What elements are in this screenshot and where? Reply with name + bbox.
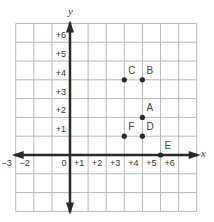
- point-label-b: B: [146, 66, 153, 76]
- point-label-d: D: [146, 122, 153, 132]
- y-tick-label: +3: [50, 87, 66, 97]
- x-tick-label: +6: [163, 158, 177, 168]
- x-tick-label: −2: [18, 158, 32, 168]
- point-d: [140, 134, 145, 139]
- arrow-up-icon: [66, 20, 74, 32]
- y-tick-label: +5: [50, 49, 66, 59]
- y-tick-label: +2: [50, 105, 66, 115]
- grid-lines: [16, 23, 197, 211]
- arrow-down-icon: [66, 202, 74, 214]
- x-tick-label: +3: [108, 158, 122, 168]
- x-tick-label: +2: [90, 158, 104, 168]
- point-a: [140, 115, 145, 120]
- point-e: [158, 152, 163, 157]
- coordinate-grid: [0, 0, 214, 222]
- point-label-a: A: [146, 103, 153, 113]
- x-tick-label: 0: [57, 158, 71, 168]
- point-f: [122, 134, 127, 139]
- point-label-f: F: [128, 122, 134, 132]
- y-tick-label: +4: [50, 68, 66, 78]
- arrow-right-icon: [189, 151, 201, 159]
- point-c: [122, 77, 127, 82]
- x-tick-label: +4: [126, 158, 140, 168]
- y-tick-label: +6: [50, 30, 66, 40]
- y-tick-label: +1: [50, 124, 66, 134]
- point-label-c: C: [128, 66, 135, 76]
- x-axis-label: x: [201, 148, 206, 159]
- point-label-e: E: [165, 141, 172, 151]
- x-tick-label: +1: [72, 158, 86, 168]
- x-tick-label: −3: [0, 158, 14, 168]
- x-tick-label: +5: [144, 158, 158, 168]
- y-axis-label: y: [68, 6, 73, 17]
- point-b: [140, 77, 145, 82]
